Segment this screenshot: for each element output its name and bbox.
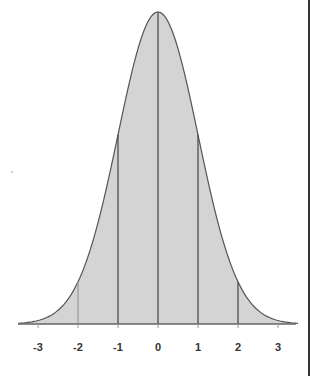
x-tick-label: 0: [155, 341, 161, 353]
x-tick-label: 1: [195, 341, 201, 353]
x-tick-label: -2: [73, 341, 83, 353]
x-tick-label: 3: [275, 341, 281, 353]
x-tick-label: 2: [235, 341, 241, 353]
normal-distribution-chart: -3-2-10123: [0, 0, 314, 376]
x-tick-label: -3: [33, 341, 43, 353]
right-border-line: [308, 0, 310, 376]
stray-dot: [11, 171, 13, 173]
x-tick-label: -1: [113, 341, 123, 353]
x-axis-tick-labels: -3-2-10123: [33, 341, 281, 353]
